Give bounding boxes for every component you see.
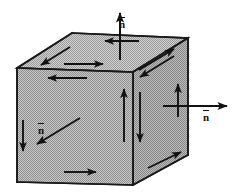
normal-right-label-text: n bbox=[203, 112, 209, 123]
normal-front-label-text: n bbox=[38, 125, 44, 136]
normal-front-label: n bbox=[38, 123, 44, 136]
normal-top-label: n bbox=[119, 17, 125, 30]
figure-container: n n n bbox=[0, 0, 234, 196]
normal-top-label-text: n bbox=[119, 19, 125, 30]
cube-front-face bbox=[17, 68, 133, 185]
cube-diagram bbox=[0, 0, 234, 196]
normal-right-label: n bbox=[203, 110, 209, 123]
